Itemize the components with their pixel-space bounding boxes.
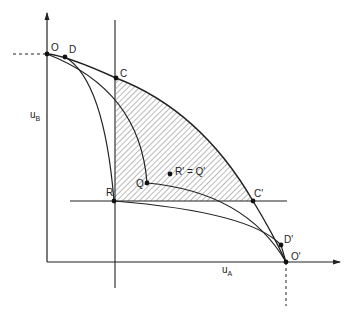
- label-o-prime: O': [291, 251, 301, 262]
- point-c-prime: [251, 199, 256, 204]
- point-d: [63, 55, 68, 60]
- label-c-prime: C': [254, 188, 263, 199]
- point-o: [45, 52, 50, 57]
- curve-r-to-dprime: [114, 201, 286, 262]
- point-d-prime: [279, 243, 284, 248]
- label-rq-prime: R' = Q': [175, 166, 205, 177]
- point-rq-prime: [168, 172, 173, 177]
- point-o-prime: [284, 260, 289, 265]
- shaded-region: [114, 78, 253, 201]
- point-r: [112, 199, 117, 204]
- label-q: Q: [136, 178, 144, 189]
- utility-possibility-diagram: O D C R Q R' = Q' C' D' O' uB uA: [0, 0, 352, 315]
- label-d-prime: D': [284, 234, 293, 245]
- label-r: R: [106, 187, 113, 198]
- point-c: [114, 76, 119, 81]
- label-c: C: [120, 68, 127, 79]
- curve-d-to-r: [65, 57, 114, 201]
- label-o: O: [51, 42, 59, 53]
- y-axis-label: uB: [30, 109, 41, 122]
- point-q: [145, 181, 150, 186]
- label-d: D: [69, 44, 76, 55]
- x-axis-label: uA: [222, 264, 233, 277]
